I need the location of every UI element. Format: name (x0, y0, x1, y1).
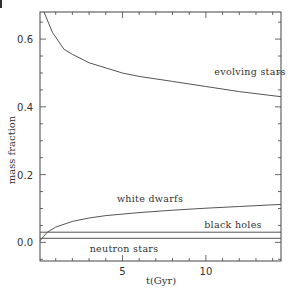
y-tick-label: 0.4 (17, 102, 33, 113)
series-evolving-stars (44, 12, 281, 97)
label-neutron-stars: neutron stars (90, 243, 159, 254)
y-tick-label: 0.6 (17, 34, 33, 45)
x-tick-label: 10 (200, 266, 213, 277)
y-tick-label: 0.0 (17, 237, 33, 248)
label-black-holes: black holes (204, 219, 262, 230)
x-axis-label: t(Gyr) (146, 275, 176, 286)
mass-fraction-chart: 5100.00.20.40.6 t(Gyr) mass fraction evo… (0, 0, 288, 297)
y-axis-label: mass fraction (6, 115, 17, 184)
series-lines (40, 12, 281, 241)
y-tick-label: 0.2 (17, 170, 33, 181)
x-tick-label: 5 (119, 266, 125, 277)
label-white-dwarfs: white dwarfs (117, 193, 183, 204)
label-evolving-stars: evolving stars (214, 66, 285, 77)
